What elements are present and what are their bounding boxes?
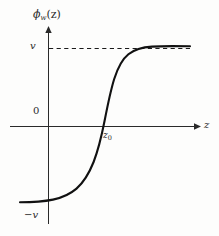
y-tick-label-negative-v: −v	[24, 210, 38, 220]
figure-container: ϕw(z) z v 0 −v z0	[0, 0, 219, 236]
x-axis-arrowhead	[194, 123, 201, 129]
y-axis-label-symbol: ϕ	[33, 8, 41, 21]
x-axis-label: z	[204, 120, 209, 130]
y-axis-label: ϕw(z)	[33, 9, 61, 22]
kink-curve	[20, 46, 190, 202]
x-axis	[10, 123, 201, 129]
y-tick-label-zero: 0	[33, 106, 39, 116]
x-tick-label-z0: z0	[103, 131, 112, 142]
y-axis-arrowhead	[45, 26, 51, 33]
y-axis-label-argument: (z)	[47, 8, 61, 21]
y-tick-label-v: v	[30, 41, 36, 51]
y-axis	[45, 26, 51, 224]
x-tick-label-z0-subscript: 0	[108, 134, 112, 142]
plot-canvas	[0, 0, 219, 236]
